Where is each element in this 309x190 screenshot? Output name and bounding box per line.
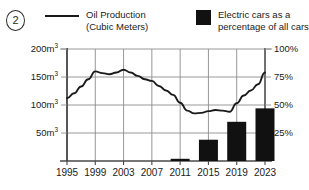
- bar: [199, 140, 218, 161]
- y-axis-label-right: 25%: [274, 127, 293, 138]
- bar: [171, 159, 190, 161]
- y-axis-label-left: 150m3: [31, 71, 58, 82]
- bar: [256, 108, 275, 161]
- plot-area: [0, 0, 309, 190]
- y-axis-label-left: 200m3: [31, 43, 58, 54]
- x-axis-label: 2023: [245, 167, 285, 178]
- y-axis-label-left: 100m3: [31, 99, 58, 110]
- y-axis-label-left: 50m3: [36, 127, 58, 138]
- y-axis-label-right: 50%: [274, 99, 293, 110]
- bar: [227, 122, 246, 161]
- y-axis-label-right: 100%: [274, 43, 298, 54]
- y-axis-label-right: 75%: [274, 71, 293, 82]
- chart-figure: 2 Oil Production (Cubic Meters) Electric…: [0, 0, 309, 190]
- oil-production-line: [67, 70, 265, 114]
